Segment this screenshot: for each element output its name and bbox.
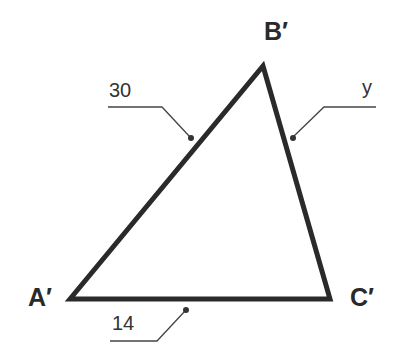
- vertex-label-a: A′: [28, 283, 52, 311]
- vertex-label-c: C′: [350, 283, 374, 311]
- triangle-diagram: B′ A′ C′ 30 y 14: [0, 0, 399, 359]
- vertex-label-b: B′: [264, 17, 288, 45]
- leader-side-bc: [290, 107, 376, 141]
- diagram-svg: B′ A′ C′ 30 y 14: [0, 0, 399, 359]
- leader-side-ab: [108, 107, 194, 141]
- side-label-ab: 30: [109, 79, 131, 101]
- side-label-ac: 14: [112, 312, 134, 334]
- side-label-bc: y: [362, 76, 372, 98]
